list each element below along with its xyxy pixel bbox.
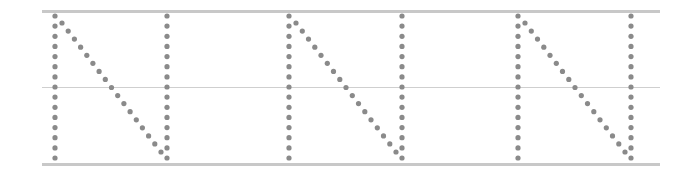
dotted-letter-n-2 (286, 13, 404, 160)
dotted-letter-n-3 (515, 13, 633, 160)
tracing-letters (0, 0, 692, 178)
dotted-letter-n-1 (52, 13, 169, 160)
